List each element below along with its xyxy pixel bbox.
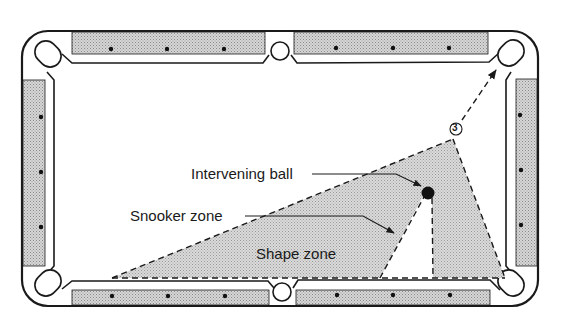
snooker-zone-label: Snooker zone [130,208,223,223]
pool-table-diagram: 3 Intervening ball Snooker zone Shape zo… [0,0,561,327]
table-drawing [0,0,561,327]
top-left-rail [72,32,265,54]
bottom-right-rail [296,290,490,305]
intervening-ball [422,187,435,200]
bottom-left-rail [72,290,269,305]
top-right-rail [294,32,488,54]
pocket-top-side [271,42,289,60]
ball-3-number: 3 [452,123,458,133]
intervening-ball-label: Intervening ball [191,166,293,181]
pocket-bottom-side [273,283,291,301]
right-rail [516,79,537,266]
shape-zone-label: Shape zone [256,246,336,261]
